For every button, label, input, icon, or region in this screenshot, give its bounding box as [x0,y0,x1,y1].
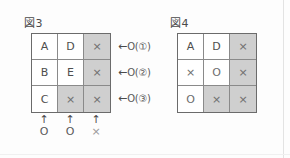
table-row: O × × [178,86,256,112]
row-annotation-label: O(①) [127,41,150,52]
column-annotation-label: O [66,125,75,138]
table-row: A D × [178,34,256,60]
table-row: A D × [32,34,110,60]
column-annotation: ↑ O [57,114,83,138]
figure-4-title: 図4 [170,14,189,30]
row-annotation-label: O(②) [127,67,150,78]
table-row: C × × [32,86,110,112]
grid-cell[interactable]: D [58,34,84,60]
grid-cell[interactable]: C [32,86,58,112]
grid-cell[interactable]: × [204,86,230,112]
row-annotation: ← O(③) [118,85,151,111]
figure-3-grid: A D × B E × C × × [31,33,111,113]
grid-cell[interactable]: × [230,34,256,60]
column-annotation: ↑ × [83,114,109,138]
grid-cell[interactable]: A [32,34,58,60]
column-annotation-label: O [40,125,49,138]
grid-cell[interactable]: × [84,34,110,60]
grid-cell[interactable]: A [178,34,204,60]
left-arrow-icon: ← [118,93,127,104]
figure-3-column-annotations: ↑ O ↑ O ↑ × [31,114,109,138]
page-frame-right-line [283,0,284,158]
grid-cell[interactable]: × [230,86,256,112]
row-annotation: ← O(②) [118,59,151,85]
up-arrow-icon: ↑ [65,114,74,125]
row-annotation: ← O(①) [118,33,151,59]
grid-cell[interactable]: B [32,60,58,86]
left-arrow-icon: ← [118,67,127,78]
up-arrow-icon: ↑ [39,114,48,125]
page-frame-bottom-line [0,154,290,155]
grid-cell[interactable]: × [178,60,204,86]
left-arrow-icon: ← [118,41,127,52]
grid-cell[interactable]: × [230,60,256,86]
row-annotation-label: O(③) [127,93,150,104]
up-arrow-icon: ↑ [91,114,100,125]
grid-cell[interactable]: × [84,60,110,86]
grid-cell[interactable]: × [84,86,110,112]
grid-cell[interactable]: × [58,86,84,112]
grid-cell[interactable]: O [204,60,230,86]
table-row: B E × [32,60,110,86]
table-row: × O × [178,60,256,86]
grid-cell[interactable]: E [58,60,84,86]
figure-page: 図3 A D × B E × C × × ← O(①) [0,0,290,158]
figure-3-title: 図3 [24,14,43,30]
grid-cell[interactable]: D [204,34,230,60]
column-annotation: ↑ O [31,114,57,138]
column-annotation-label: × [91,125,100,138]
grid-cell[interactable]: O [178,86,204,112]
figure-3-row-annotations: ← O(①) ← O(②) ← O(③) [118,33,151,111]
figure-4-grid: A D × × O × O × × [177,33,257,113]
